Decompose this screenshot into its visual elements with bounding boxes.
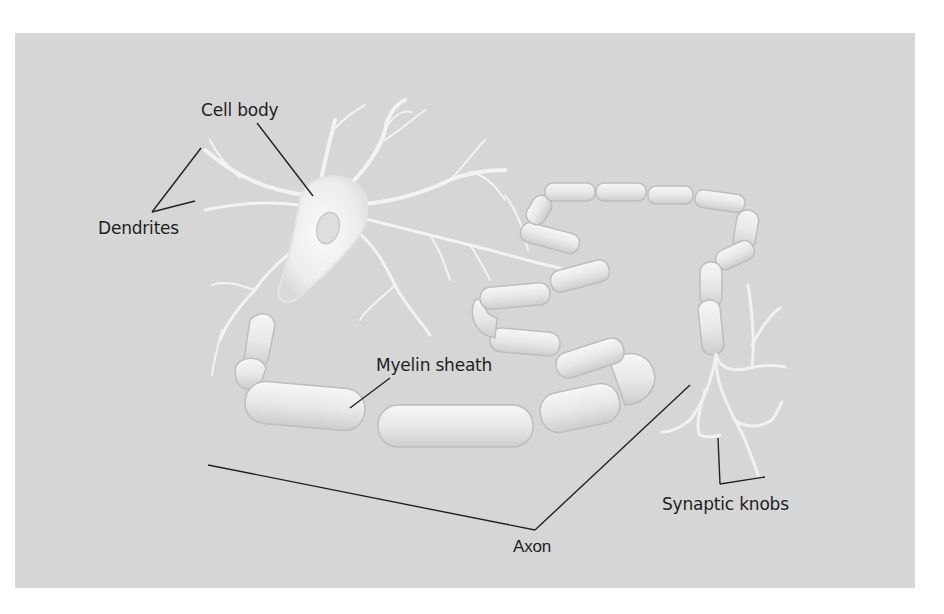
axon-terminals (662, 285, 785, 475)
label-myelin-sheath: Myelin sheath (376, 355, 492, 375)
cell-body (279, 176, 368, 302)
label-axon: Axon (513, 537, 551, 557)
label-synaptic-knobs: Synaptic knobs (662, 494, 789, 514)
label-dendrites: Dendrites (98, 218, 179, 238)
leader-lines (152, 123, 765, 530)
label-cell-body: Cell body (201, 100, 278, 120)
neuron-illustration (0, 0, 944, 614)
